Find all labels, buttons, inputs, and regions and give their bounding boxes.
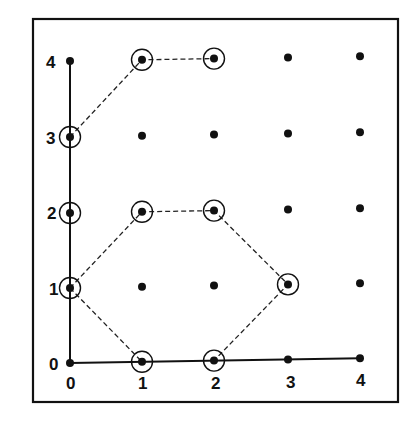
x-label-1: 1 — [138, 374, 147, 393]
grid-point-4-0 — [356, 354, 364, 362]
x-label-3: 3 — [286, 373, 295, 392]
grid-point-3-3 — [284, 129, 292, 137]
y-label-2: 2 — [47, 204, 56, 223]
grid-point-0-4 — [66, 57, 74, 65]
grid-point-0-1 — [66, 284, 74, 292]
dashed-path-2 — [70, 288, 142, 362]
y-label-4: 4 — [46, 53, 56, 72]
x-axis-labels: 0 1 2 3 4 — [66, 371, 366, 393]
grid-point-3-2 — [284, 205, 292, 213]
grid-point-3-4 — [284, 53, 292, 61]
grid-point-2-2 — [210, 207, 218, 215]
grid-point-4-1 — [356, 279, 364, 287]
y-label-3: 3 — [46, 129, 55, 148]
grid-point-4-4 — [356, 52, 364, 60]
grid-point-0-2 — [66, 209, 74, 217]
grid-point-1-0 — [138, 358, 146, 366]
lattice-diagram: 0 1 2 3 4 0 1 2 3 4 — [0, 0, 407, 435]
circled-points — [60, 48, 299, 372]
grid-point-1-3 — [138, 132, 146, 140]
y-axis-labels: 0 1 2 3 4 — [46, 53, 58, 374]
grid-points — [66, 52, 364, 367]
x-label-2: 2 — [211, 374, 220, 393]
grid-point-0-0 — [66, 359, 74, 367]
grid-point-1-1 — [138, 283, 146, 291]
grid-point-2-0 — [210, 357, 218, 365]
grid-point-4-2 — [356, 204, 364, 212]
grid-point-1-2 — [138, 208, 146, 216]
dashed-paths — [70, 59, 288, 362]
grid-point-3-1 — [284, 280, 292, 288]
y-label-1: 1 — [49, 280, 58, 299]
grid-point-2-1 — [210, 282, 218, 290]
dashed-path-1 — [70, 211, 288, 361]
grid-point-0-3 — [66, 133, 74, 141]
y-label-0: 0 — [49, 355, 58, 374]
grid-point-1-4 — [138, 56, 146, 64]
grid-point-2-4 — [210, 55, 218, 63]
x-label-4: 4 — [356, 371, 366, 390]
grid-point-3-0 — [284, 355, 292, 363]
x-label-0: 0 — [66, 374, 75, 393]
grid-point-2-3 — [210, 131, 218, 139]
grid-point-4-3 — [356, 128, 364, 136]
